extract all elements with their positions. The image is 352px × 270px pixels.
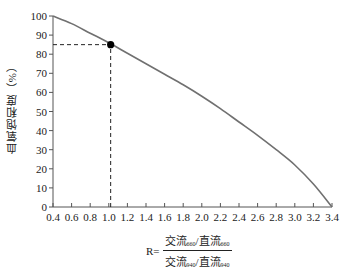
y-tick-label: 60 bbox=[36, 86, 48, 98]
spo2-chart: 01020304050607080901000.40.60.81.01.21.4… bbox=[0, 0, 352, 228]
formula-prefix: R= bbox=[146, 245, 160, 257]
x-tick-label: 3.2 bbox=[307, 211, 321, 223]
curve-line bbox=[53, 16, 332, 207]
y-tick-label: 40 bbox=[36, 125, 48, 137]
x-tick-label: 3.0 bbox=[288, 211, 302, 223]
y-tick-label: 70 bbox=[36, 67, 48, 79]
chart-axes: 01020304050607080901000.40.60.81.01.21.4… bbox=[31, 10, 340, 223]
calibration-curve bbox=[53, 16, 332, 207]
x-tick-label: 2.0 bbox=[195, 211, 209, 223]
x-tick-label: 2.2 bbox=[214, 211, 228, 223]
y-tick-label: 50 bbox=[36, 106, 48, 118]
x-tick-label: 0.6 bbox=[65, 211, 79, 223]
x-tick-label: 3.4 bbox=[325, 211, 339, 223]
y-tick-label: 100 bbox=[31, 10, 48, 22]
x-tick-label: 1.8 bbox=[176, 211, 190, 223]
x-tick-label: 2.6 bbox=[251, 211, 265, 223]
annotations bbox=[53, 41, 114, 207]
x-tick-label: 1.2 bbox=[121, 211, 135, 223]
highlight-point bbox=[107, 41, 114, 48]
y-tick-label: 10 bbox=[36, 182, 48, 194]
x-tick-label: 0.8 bbox=[83, 211, 97, 223]
y-tick-label: 90 bbox=[36, 29, 48, 41]
y-axis-label: 血氧饱和度（%） bbox=[4, 60, 20, 154]
x-tick-label: 1.0 bbox=[102, 211, 116, 223]
x-axis-formula: R= 交流660/直流660 交流940/直流940 bbox=[146, 232, 232, 269]
y-tick-label: 30 bbox=[36, 144, 48, 156]
x-tick-label: 1.6 bbox=[158, 211, 172, 223]
y-tick-label: 20 bbox=[36, 163, 48, 175]
x-tick-label: 2.4 bbox=[232, 211, 246, 223]
x-tick-label: 1.4 bbox=[139, 211, 153, 223]
formula-fraction: 交流660/直流660 交流940/直流940 bbox=[163, 232, 232, 269]
y-tick-label: 80 bbox=[36, 48, 48, 60]
x-tick-label: 2.8 bbox=[269, 211, 283, 223]
x-tick-label: 0.4 bbox=[46, 211, 60, 223]
formula-denominator: 交流940/直流940 bbox=[163, 251, 232, 269]
formula-numerator: 交流660/直流660 bbox=[163, 232, 232, 251]
